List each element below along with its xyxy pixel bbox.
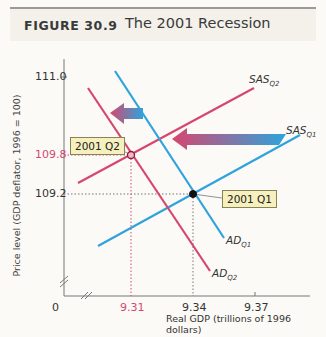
y-axis-label: Price level (GDP deflator, 1996 = 100) (11, 86, 22, 286)
x-tick-0: 0 (52, 301, 59, 314)
label-sas-q1-main: SAS (286, 124, 307, 136)
label-ad-q2-main: AD (212, 267, 227, 279)
label-ad-q1-sub: Q1 (241, 241, 251, 249)
label-sas-q2-main: SAS (249, 73, 270, 85)
y-tick-109-8: 109.8 (35, 148, 67, 161)
label-sas-q2: SASQ2 (249, 73, 279, 88)
x-axis-label: Real GDP (trillions of 1996 dollars) (166, 313, 326, 335)
callout-2001-q2: 2001 Q2 (70, 137, 125, 155)
label-ad-q2-sub: Q2 (227, 274, 237, 282)
callout-2001-q1: 2001 Q1 (222, 190, 277, 208)
label-ad-q1-main: AD (226, 234, 241, 246)
y-tick-111: 111.0 (35, 70, 67, 83)
ad-q2-curve (88, 88, 210, 271)
label-ad-q1: ADQ1 (226, 234, 251, 249)
label-sas-q1: SASQ1 (286, 124, 316, 139)
equilibrium-q1-marker (190, 191, 197, 198)
y-tick-109-2: 109.2 (35, 187, 67, 200)
sas-shift-arrow-icon (172, 128, 286, 150)
equilibrium-q2-marker (128, 152, 135, 159)
label-sas-q2-sub: Q2 (270, 80, 280, 88)
x-tick-9-31: 9.31 (120, 301, 145, 314)
label-sas-q1-sub: Q1 (307, 131, 317, 139)
guide-lines (64, 155, 193, 296)
chart-canvas (0, 0, 326, 337)
label-ad-q2: ADQ2 (212, 267, 237, 282)
